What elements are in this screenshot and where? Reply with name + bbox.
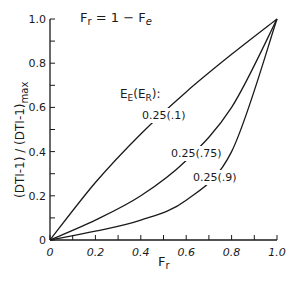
y-axis-label: (DTI-1) / (DTI-1)max xyxy=(13,82,30,198)
x-axis-label: Fr xyxy=(158,254,170,271)
axes: 00.20.40.60.81.000.20.40.60.81.0 xyxy=(29,13,286,259)
x-tick-label: 0.6 xyxy=(177,246,195,259)
series-line-1 xyxy=(50,19,277,240)
series-label-1: 0.25(.75) xyxy=(171,147,222,160)
series-label-0: 0.25(.1) xyxy=(142,109,186,122)
y-tick-label: 0 xyxy=(39,234,46,247)
y-tick-label: 0.8 xyxy=(29,57,47,70)
series-line-2 xyxy=(50,19,277,240)
y-tick-label: 0.4 xyxy=(29,146,47,159)
chart: 00.20.40.60.81.000.20.40.60.81.0 Fr = 1 … xyxy=(0,0,293,282)
x-tick-label: 0 xyxy=(47,246,54,259)
chart-plot: 00.20.40.60.81.000.20.40.60.81.0 Fr = 1 … xyxy=(0,0,293,282)
x-tick-label: 0.8 xyxy=(223,246,241,259)
labels: Fr = 1 − Fe Fr (DTI-1) / (DTI-1)max EE(E… xyxy=(13,10,239,271)
y-tick-label: 0.2 xyxy=(29,190,47,203)
legend-title: EE(ER): xyxy=(120,87,161,103)
curves xyxy=(50,19,277,240)
x-tick-label: 0.4 xyxy=(132,246,150,259)
annotation: Fr = 1 − Fe xyxy=(80,10,152,27)
y-tick-label: 1.0 xyxy=(29,13,47,26)
y-tick-label: 0.6 xyxy=(29,101,47,114)
series-line-0 xyxy=(50,19,277,240)
x-tick-label: 0.2 xyxy=(87,246,105,259)
series-label-2: 0.25(.9) xyxy=(193,171,237,184)
x-tick-label: 1.0 xyxy=(268,246,286,259)
